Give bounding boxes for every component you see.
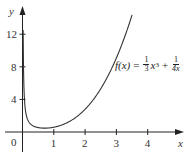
y-tick-label: 12: [6, 28, 17, 40]
equals-sign: =: [133, 59, 139, 71]
axes: [5, 6, 184, 152]
function-label: f(x) = 1 3 x3 + 1 4x: [115, 56, 181, 73]
y-tick-label: 8: [11, 61, 17, 73]
fraction-one-third: 1 3: [143, 56, 149, 73]
y-axis-arrow-icon: [20, 6, 26, 15]
y-axis-label: y: [8, 5, 14, 17]
term1-exponent: 3: [155, 61, 159, 69]
x-tick-label: 2: [82, 137, 88, 149]
plus-sign: +: [162, 59, 168, 71]
x-axis-label: x: [177, 137, 183, 149]
origin-label: 0: [11, 136, 17, 148]
function-lhs: f(x): [115, 59, 130, 71]
x-tick-label: 3: [113, 137, 119, 149]
y-tick-label: 4: [11, 93, 17, 105]
x-axis-arrow-icon: [175, 129, 184, 135]
x-tick-label: 1: [51, 137, 57, 149]
fraction-one-over-4x: 1 4x: [172, 56, 180, 73]
chart-canvas: 1234 4812 0 x y: [0, 0, 187, 154]
x-tick-label: 4: [145, 137, 151, 149]
